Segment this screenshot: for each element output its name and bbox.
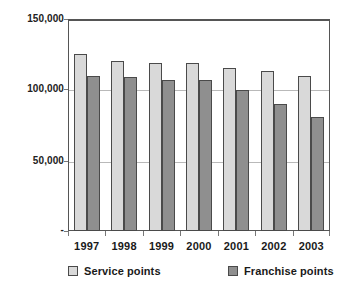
x-tick-label-2001: 2001 (218, 239, 255, 253)
bars-layer (68, 19, 330, 231)
x-tick-label-1999: 1999 (143, 239, 180, 253)
y-tick-label-100000: 100,000 (0, 84, 64, 94)
legend-item-franchise: Franchise points (228, 263, 334, 279)
bar-group-2002 (261, 19, 287, 231)
bar-service-2003 (298, 76, 311, 231)
bar-service-2000 (186, 63, 199, 231)
x-tick-label-1998: 1998 (105, 239, 142, 253)
bar-franchise-1999 (162, 80, 175, 231)
y-axis: 150,000 100,000 50,000 - (0, 0, 64, 297)
x-tick-mark-1999 (143, 231, 144, 236)
bar-service-2001 (223, 68, 236, 231)
bar-service-1998 (111, 61, 124, 231)
bar-group-1998 (111, 19, 137, 231)
bar-franchise-1998 (124, 77, 137, 231)
bar-franchise-2002 (274, 104, 287, 231)
x-tick-mark-2000 (180, 231, 181, 236)
x-tick-label-2002: 2002 (255, 239, 292, 253)
legend-item-service: Service points (68, 263, 161, 279)
x-tick-label-1997: 1997 (68, 239, 105, 253)
legend-swatch-service-icon (68, 266, 78, 276)
chart-legend: Service points Franchise points (60, 263, 345, 283)
bar-chart-figure: 150,000 100,000 50,000 - 199719981999200… (0, 0, 351, 297)
x-axis: 1997199819992000200120022003 (68, 239, 330, 255)
bar-service-1997 (74, 54, 87, 231)
x-tick-mark-1998 (105, 231, 106, 236)
x-tick-mark-end (329, 231, 330, 236)
legend-label-franchise: Franchise points (244, 265, 334, 277)
x-tick-label-2000: 2000 (180, 239, 217, 253)
bar-group-2000 (186, 19, 212, 231)
legend-label-service: Service points (84, 265, 161, 277)
y-tick-label-150000: 150,000 (0, 14, 64, 24)
x-tick-mark-2002 (255, 231, 256, 236)
bar-franchise-2003 (311, 117, 324, 231)
x-tick-mark-1997 (68, 231, 69, 236)
bar-group-2001 (223, 19, 249, 231)
bar-service-2002 (261, 71, 274, 231)
x-tick-mark-2001 (218, 231, 219, 236)
bar-group-2003 (298, 19, 324, 231)
bar-group-1997 (74, 19, 100, 231)
y-tick-label-zero: - (0, 225, 64, 235)
bar-service-1999 (149, 63, 162, 231)
y-tick-label-50000: 50,000 (0, 156, 64, 166)
x-tick-label-2003: 2003 (293, 239, 330, 253)
bar-group-1999 (149, 19, 175, 231)
bar-franchise-1997 (87, 76, 100, 231)
legend-swatch-franchise-icon (228, 266, 238, 276)
x-tick-mark-2003 (293, 231, 294, 236)
bar-franchise-2001 (236, 90, 249, 231)
x-axis-ticks (68, 231, 330, 237)
bar-franchise-2000 (199, 80, 212, 231)
